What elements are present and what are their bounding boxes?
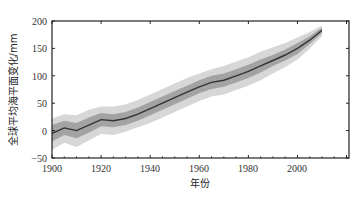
y-tick-label: 50 — [37, 98, 47, 109]
y-tick-label: 100 — [32, 71, 47, 82]
x-tick-label: 1960 — [189, 163, 209, 174]
x-axis-title: 年份 — [190, 177, 210, 189]
y-tick-label: 200 — [32, 16, 47, 27]
x-tick-label: 1920 — [91, 163, 111, 174]
y-tick-label: 150 — [32, 43, 47, 54]
y-axis-title: 全球平均海平面变化/mm — [7, 34, 19, 147]
uncertainty-bands — [52, 25, 322, 149]
y-tick-label: 0 — [42, 126, 47, 137]
x-tick-label: 2000 — [287, 163, 307, 174]
x-tick-label: 1940 — [140, 163, 160, 174]
sea-level-chart: 200 150 100 50 0 −50 1900 1920 1940 1960… — [0, 0, 364, 199]
x-tick-label: 1900 — [42, 163, 62, 174]
x-tick-label: 1980 — [238, 163, 258, 174]
